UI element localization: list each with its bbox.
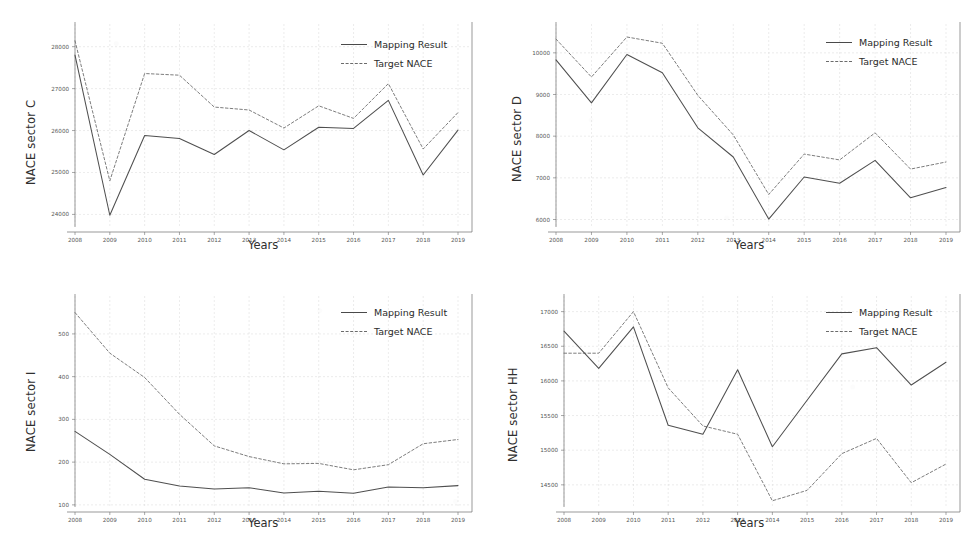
legend-item-target-nace: Target NACE (826, 327, 932, 337)
chart-panel-nace-sector-d: 600070008000900010000 200820092010201120… (484, 0, 969, 272)
svg-text:14500: 14500 (540, 482, 558, 488)
svg-text:9000: 9000 (536, 92, 551, 98)
svg-text:400: 400 (58, 374, 69, 380)
svg-text:2017: 2017 (869, 517, 884, 523)
legend-label-target-nace: Target NACE (859, 57, 917, 67)
x-axis-label-sector-hh: Years (734, 516, 764, 530)
svg-text:500: 500 (58, 331, 69, 337)
svg-text:7000: 7000 (536, 175, 551, 181)
legend-line-dashed-icon (341, 63, 367, 64)
chart-panel-nace-sector-hh: 145001500015500160001650017000 200820092… (484, 272, 969, 545)
figure-page: 2400025000260002700028000 20082009201020… (0, 0, 969, 545)
y-tick-labels-sector-c: 2400025000260002700028000 (51, 44, 75, 218)
svg-text:27000: 27000 (51, 86, 69, 92)
legend-label-mapping-result: Mapping Result (859, 308, 932, 318)
panel-grid: 2400025000260002700028000 20082009201020… (0, 0, 969, 545)
svg-text:200: 200 (58, 459, 69, 465)
svg-text:2016: 2016 (346, 517, 361, 523)
svg-text:17000: 17000 (540, 309, 558, 315)
chart-panel-nace-sector-i: 100200300400500 200820092010201120122013… (0, 272, 484, 545)
svg-text:15000: 15000 (540, 447, 558, 453)
svg-text:2014: 2014 (277, 517, 292, 523)
legend-sector-hh: Mapping Result Target NACE (826, 308, 932, 345)
chart-panel-nace-sector-c: 2400025000260002700028000 20082009201020… (0, 0, 484, 272)
legend-label-mapping-result: Mapping Result (374, 40, 447, 50)
legend-item-mapping-result: Mapping Result (826, 308, 932, 318)
y-axis-label-sector-i: NACE sector I (24, 371, 38, 452)
legend-item-target-nace: Target NACE (826, 57, 932, 67)
svg-text:2018: 2018 (416, 237, 431, 243)
svg-text:2008: 2008 (549, 237, 564, 243)
svg-text:2012: 2012 (207, 237, 221, 243)
legend-line-solid-icon (826, 312, 852, 313)
svg-text:100: 100 (58, 502, 69, 508)
svg-text:2017: 2017 (381, 517, 396, 523)
svg-text:2018: 2018 (904, 517, 919, 523)
svg-text:2008: 2008 (68, 517, 83, 523)
y-tick-labels-sector-hh: 145001500015500160001650017000 (540, 309, 564, 488)
svg-text:2019: 2019 (451, 517, 466, 523)
svg-text:2015: 2015 (312, 237, 327, 243)
legend-sector-c: Mapping Result Target NACE (341, 40, 447, 77)
svg-text:15500: 15500 (540, 413, 558, 419)
legend-label-target-nace: Target NACE (859, 327, 917, 337)
legend-line-dashed-icon (826, 331, 852, 332)
svg-text:2011: 2011 (661, 517, 676, 523)
svg-text:2014: 2014 (277, 237, 292, 243)
svg-text:10000: 10000 (532, 50, 550, 56)
x-axis-label-sector-c: Years (248, 238, 278, 252)
y-axis-label-sector-d: NACE sector D (510, 96, 524, 182)
legend-sector-d: Mapping Result Target NACE (826, 38, 932, 75)
svg-text:2019: 2019 (939, 237, 954, 243)
y-tick-labels-sector-i: 100200300400500 (58, 331, 75, 508)
svg-text:2017: 2017 (381, 237, 396, 243)
svg-text:8000: 8000 (536, 133, 551, 139)
y-tick-labels-sector-d: 600070008000900010000 (532, 50, 556, 223)
legend-item-mapping-result: Mapping Result (341, 308, 447, 318)
svg-text:2017: 2017 (868, 237, 883, 243)
svg-text:2019: 2019 (451, 237, 466, 243)
svg-text:2016: 2016 (833, 237, 848, 243)
svg-text:2015: 2015 (800, 517, 815, 523)
svg-text:2008: 2008 (557, 517, 572, 523)
svg-text:2011: 2011 (172, 237, 187, 243)
svg-text:2019: 2019 (939, 517, 954, 523)
svg-text:2015: 2015 (312, 517, 327, 523)
svg-text:16000: 16000 (540, 378, 558, 384)
svg-text:2010: 2010 (626, 517, 641, 523)
svg-text:24000: 24000 (51, 211, 69, 217)
series-mapping-result-sector-c (75, 55, 458, 215)
svg-text:2011: 2011 (655, 237, 670, 243)
svg-text:16500: 16500 (540, 343, 558, 349)
svg-text:2015: 2015 (797, 237, 812, 243)
x-axis-label-sector-d: Years (734, 238, 764, 252)
legend-item-target-nace: Target NACE (341, 59, 447, 69)
svg-text:26000: 26000 (51, 128, 69, 134)
series-mapping-result-sector-d (556, 55, 946, 220)
svg-text:25000: 25000 (51, 169, 69, 175)
y-axis-label-sector-hh: NACE sector HH (506, 367, 520, 462)
svg-text:2010: 2010 (138, 517, 153, 523)
svg-text:2016: 2016 (346, 237, 361, 243)
svg-text:2012: 2012 (691, 237, 705, 243)
y-axis-label-sector-c: NACE sector C (24, 100, 38, 185)
legend-line-solid-icon (826, 42, 852, 43)
svg-text:6000: 6000 (536, 217, 551, 223)
x-axis-label-sector-i: Years (248, 516, 278, 530)
svg-text:2012: 2012 (207, 517, 221, 523)
svg-text:2009: 2009 (584, 237, 599, 243)
legend-line-dashed-icon (341, 331, 367, 332)
svg-text:2018: 2018 (416, 517, 431, 523)
legend-label-target-nace: Target NACE (374, 59, 432, 69)
legend-item-target-nace: Target NACE (341, 327, 447, 337)
svg-text:2009: 2009 (592, 517, 607, 523)
svg-text:2009: 2009 (103, 237, 118, 243)
legend-label-mapping-result: Mapping Result (859, 38, 932, 48)
svg-text:2012: 2012 (696, 517, 710, 523)
svg-text:2010: 2010 (138, 237, 153, 243)
svg-text:28000: 28000 (51, 44, 69, 50)
svg-text:2010: 2010 (620, 237, 635, 243)
svg-text:2014: 2014 (765, 517, 780, 523)
svg-text:2018: 2018 (903, 237, 918, 243)
svg-text:2008: 2008 (68, 237, 83, 243)
